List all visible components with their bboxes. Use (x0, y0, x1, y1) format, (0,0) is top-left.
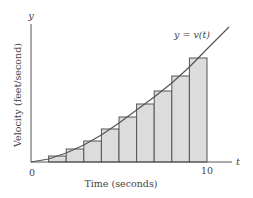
bar-7-8 (154, 91, 172, 162)
bar-5-6 (119, 117, 137, 162)
y-axis-label: Velocity (feet/second) (12, 43, 23, 148)
curve-label: y = v(t) (173, 29, 210, 40)
bar-9-10 (189, 58, 207, 162)
x-axis-symbol: t (236, 156, 241, 167)
x-tick-0: 0 (29, 167, 35, 178)
bar-8-9 (172, 76, 190, 162)
bar-4-5 (101, 129, 119, 162)
bar-1-2 (49, 156, 67, 162)
y-axis-symbol: y (27, 10, 34, 21)
bars-group (49, 58, 207, 162)
bar-6-7 (137, 104, 155, 162)
x-tick-10: 10 (201, 165, 213, 176)
bar-2-3 (66, 149, 84, 162)
x-axis-label: Time (seconds) (84, 178, 157, 189)
riemann-sum-chart: y t y = v(t) 0 10 Time (seconds) Velocit… (0, 0, 253, 198)
